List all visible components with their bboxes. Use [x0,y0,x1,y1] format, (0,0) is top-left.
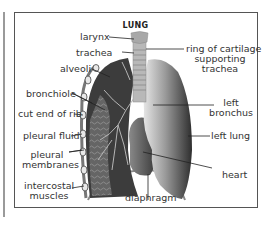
label-heart: heart [222,170,247,180]
label-larynx: larynx [80,32,110,42]
label-left-lung: left lung [211,131,250,141]
label-intercostal-muscles: intercostal muscles [24,181,74,201]
left-lung-shape [144,59,193,199]
label-trachea: trachea [76,48,112,58]
label-pleural-fluid: pleural fluid [23,131,80,141]
larynx-shape [131,32,148,44]
label-alveoli: alveoli [60,64,91,74]
label-left-bronchus: left bronchus [208,98,254,118]
label-ring-of-cartilage: ring of cartilage supporting trachea [186,44,254,74]
label-pleural-membranes: pleural membranes [22,150,72,170]
label-diaphragm: diaphragm [125,193,177,203]
label-bronchiole: bronchiole [26,89,76,99]
label-cut-end-of-rib: cut end of rib [18,109,82,119]
trachea-shape [133,40,146,102]
diagram-title: LUNG [0,21,271,30]
